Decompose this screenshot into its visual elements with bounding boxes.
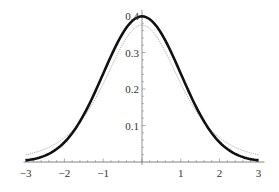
x-tick-label: 3 [256, 167, 262, 179]
x-tick-label: −3 [20, 167, 32, 179]
density-chart: −3−2−11230.10.20.30.4 [0, 0, 279, 192]
axes [24, 10, 265, 165]
y-tick-label: 0.3 [125, 47, 139, 59]
x-tick-label: −2 [59, 167, 71, 179]
x-tick-label: −1 [97, 167, 109, 179]
x-tick-label: 1 [178, 167, 184, 179]
x-tick-label: 2 [217, 167, 223, 179]
tick-labels: −3−2−11230.10.20.30.4 [20, 10, 262, 179]
y-tick-label: 0.2 [125, 83, 139, 95]
y-tick-label: 0.4 [125, 10, 139, 22]
y-tick-label: 0.1 [125, 120, 139, 132]
